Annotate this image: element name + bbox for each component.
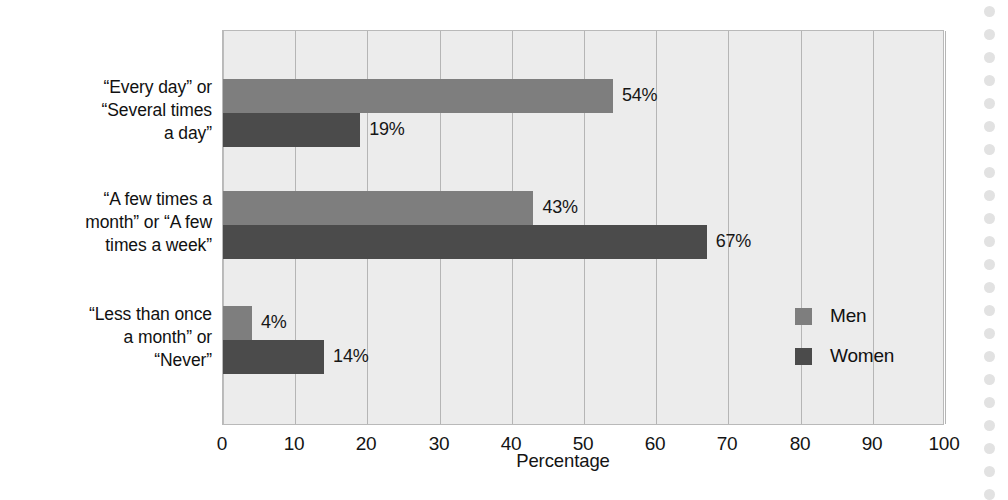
gridline-70	[728, 31, 729, 424]
x-tick-100: 100	[928, 433, 959, 455]
bar-value-label: 67%	[716, 231, 751, 252]
bar-men-group-1	[223, 79, 613, 113]
binding-dot	[984, 98, 995, 109]
legend-label-men: Men	[830, 305, 866, 327]
binding-dot	[984, 52, 995, 63]
x-tick-60: 60	[645, 433, 666, 455]
bar-men-group-2	[223, 191, 533, 225]
binding-dot	[984, 374, 995, 385]
bar-women-group-2	[223, 225, 707, 259]
binding-dot	[984, 6, 995, 17]
binding-dot	[984, 144, 995, 155]
bar-men-group-3	[223, 306, 252, 340]
binding-dot	[984, 443, 995, 454]
bar-women-group-3	[223, 340, 324, 374]
binding-dot	[984, 213, 995, 224]
legend-swatch-men	[795, 308, 812, 325]
bar-value-label: 19%	[369, 119, 404, 140]
x-tick-20: 20	[356, 433, 377, 455]
category-label-3: “Less than once a month” or “Never”	[40, 303, 212, 372]
gridline-100	[945, 31, 946, 424]
binding-dot	[984, 167, 995, 178]
binding-dot	[984, 29, 995, 40]
binding-dot	[984, 121, 995, 132]
x-tick-80: 80	[790, 433, 811, 455]
binding-dot	[984, 282, 995, 293]
binding-dot	[984, 328, 995, 339]
binding-dot	[984, 190, 995, 201]
legend-item-women: Women	[795, 345, 894, 367]
legend-label-women: Women	[830, 345, 894, 367]
binding-dot	[984, 236, 995, 247]
bar-value-label: 54%	[622, 85, 657, 106]
x-tick-70: 70	[717, 433, 738, 455]
x-tick-10: 10	[284, 433, 305, 455]
binding-dot	[984, 420, 995, 431]
legend-item-men: Men	[795, 305, 866, 327]
bar-women-group-1	[223, 113, 360, 147]
binding-dot	[984, 259, 995, 270]
binding-dot	[984, 75, 995, 86]
binding-dot	[984, 489, 995, 500]
bar-value-label: 14%	[333, 346, 368, 367]
x-tick-90: 90	[862, 433, 883, 455]
bar-value-label: 43%	[542, 197, 577, 218]
binding-dot	[984, 351, 995, 362]
x-tick-0: 0	[217, 433, 227, 455]
legend-swatch-women	[795, 348, 812, 365]
x-tick-30: 30	[429, 433, 450, 455]
binding-dot	[984, 305, 995, 316]
category-label-1: “Every day” or “Several times a day”	[40, 76, 212, 145]
bar-value-label: 4%	[261, 312, 287, 333]
binding-dot	[984, 397, 995, 408]
page-binding-dots-artifact	[984, 0, 998, 495]
x-axis-title: Percentage	[516, 450, 610, 472]
category-label-2: “A few times a month” or “A few times a …	[40, 188, 212, 257]
binding-dot	[984, 466, 995, 477]
